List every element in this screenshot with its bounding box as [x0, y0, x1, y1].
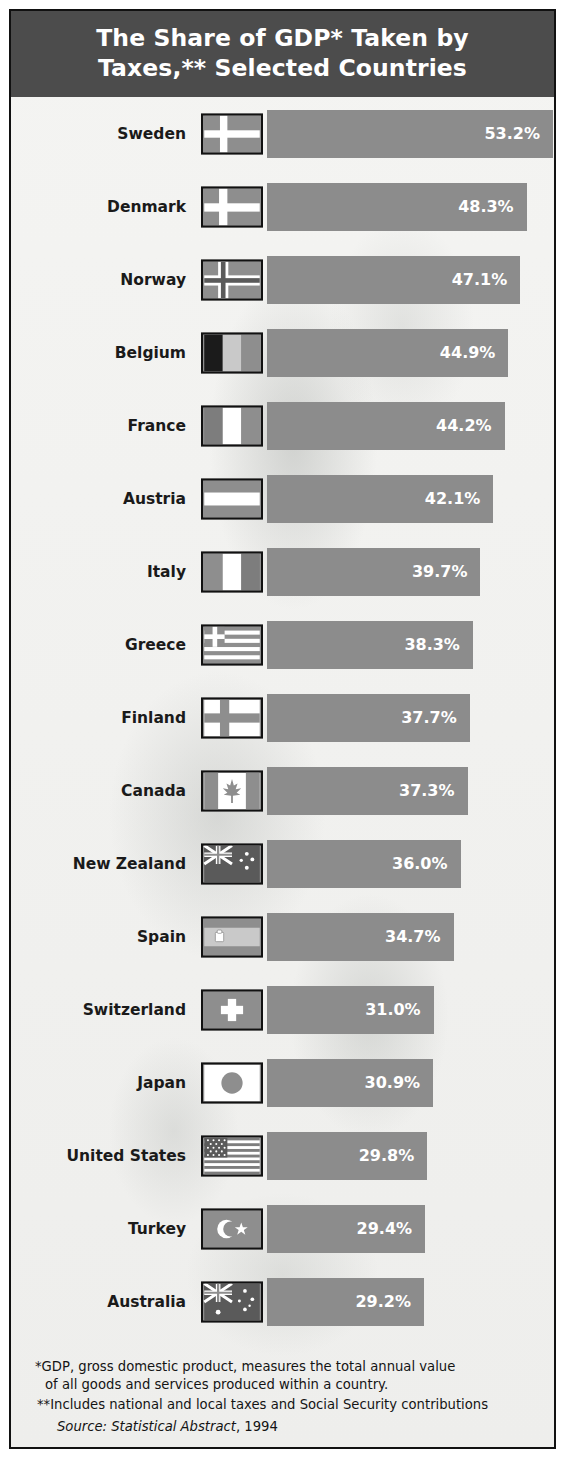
title-line-1: The Share of GDP* Taken by	[96, 24, 469, 52]
value-label: 36.0%	[392, 854, 448, 873]
chart-row: Denmark 48.3%	[11, 170, 554, 243]
turkey-flag	[201, 1208, 263, 1249]
chart-row: Finland 37.7%	[11, 681, 554, 754]
chart-row: Austria 42.1%	[11, 462, 554, 535]
chart-row: Japan 30.9%	[11, 1046, 554, 1119]
country-label: Spain	[137, 900, 186, 973]
source-text: Source: Statistical Abstract	[57, 1419, 236, 1434]
footnote-taxes: **Includes national and local taxes and …	[37, 1396, 554, 1413]
value-label: 31.0%	[365, 1000, 421, 1019]
denmark-flag	[201, 186, 263, 227]
value-bar: 29.8%	[267, 1132, 427, 1180]
value-label: 29.8%	[359, 1146, 415, 1165]
bar-chart-rows: Sweden 53.2%Denmark 48.3%Norway 47.1%Bel…	[11, 97, 554, 1338]
country-label: United States	[66, 1119, 186, 1192]
country-label: Canada	[121, 754, 186, 827]
value-bar: 44.9%	[267, 329, 508, 377]
united-states-flag	[201, 1135, 263, 1176]
chart-row: Italy 39.7%	[11, 535, 554, 608]
country-label: Belgium	[115, 316, 186, 389]
value-bar: 29.2%	[267, 1278, 424, 1326]
belgium-flag	[201, 332, 263, 373]
france-flag	[201, 405, 263, 446]
value-label: 48.3%	[458, 197, 514, 216]
country-label: Denmark	[107, 170, 186, 243]
country-label: Italy	[147, 535, 186, 608]
value-bar: 34.7%	[267, 913, 454, 961]
value-bar: 53.2%	[267, 110, 553, 158]
value-bar: 29.4%	[267, 1205, 425, 1253]
chart-row: Greece 38.3%	[11, 608, 554, 681]
sweden-flag	[201, 113, 263, 154]
chart-row: Norway 47.1%	[11, 243, 554, 316]
chart-row: United States 29.8%	[11, 1119, 554, 1192]
value-bar: 37.3%	[267, 767, 468, 815]
value-bar: 48.3%	[267, 183, 527, 231]
value-label: 34.7%	[385, 927, 441, 946]
value-label: 44.2%	[436, 416, 492, 435]
country-label: Austria	[123, 462, 186, 535]
value-label: 42.1%	[425, 489, 481, 508]
chart-row: Australia 29.2%	[11, 1265, 554, 1338]
country-label: Norway	[120, 243, 186, 316]
chart-row: Spain 34.7%	[11, 900, 554, 973]
value-bar: 37.7%	[267, 694, 470, 742]
country-label: France	[128, 389, 186, 462]
value-label: 44.9%	[440, 343, 496, 362]
source-year: , 1994	[236, 1419, 278, 1434]
country-label: Switzerland	[83, 973, 186, 1046]
infographic-poster: The Share of GDP* Taken by Taxes,** Sele…	[9, 9, 556, 1449]
greece-flag	[201, 624, 263, 665]
value-bar: 42.1%	[267, 475, 493, 523]
source-line: Source: Statistical Abstract, 1994	[57, 1418, 554, 1435]
footnote-gdp-line-1: *GDP, gross domestic product, measures t…	[35, 1359, 455, 1374]
footnotes: *GDP, gross domestic product, measures t…	[11, 1358, 554, 1435]
chart-header: The Share of GDP* Taken by Taxes,** Sele…	[11, 11, 554, 97]
value-bar: 31.0%	[267, 986, 434, 1034]
chart-row: Belgium 44.9%	[11, 316, 554, 389]
value-bar: 44.2%	[267, 402, 505, 450]
italy-flag	[201, 551, 263, 592]
country-label: Finland	[121, 681, 186, 754]
chart-row: Turkey 29.4%	[11, 1192, 554, 1265]
value-bar: 47.1%	[267, 256, 520, 304]
new-zealand-flag	[201, 843, 263, 884]
value-label: 39.7%	[412, 562, 468, 581]
value-label: 37.3%	[399, 781, 455, 800]
finland-flag	[201, 697, 263, 738]
footnote-gdp: *GDP, gross domestic product, measures t…	[45, 1358, 554, 1393]
japan-flag	[201, 1062, 263, 1103]
value-label: 29.4%	[357, 1219, 413, 1238]
chart-row: France 44.2%	[11, 389, 554, 462]
country-label: New Zealand	[73, 827, 186, 900]
chart-row: New Zealand 36.0%	[11, 827, 554, 900]
austria-flag	[201, 478, 263, 519]
country-label: Greece	[125, 608, 186, 681]
value-label: 30.9%	[365, 1073, 421, 1092]
value-label: 38.3%	[404, 635, 460, 654]
norway-flag	[201, 259, 263, 300]
chart-row: Sweden 53.2%	[11, 97, 554, 170]
value-bar: 30.9%	[267, 1059, 433, 1107]
country-label: Australia	[107, 1265, 186, 1338]
value-label: 29.2%	[355, 1292, 411, 1311]
canada-flag	[201, 770, 263, 811]
value-label: 53.2%	[484, 124, 540, 143]
value-bar: 38.3%	[267, 621, 473, 669]
value-label: 37.7%	[401, 708, 457, 727]
footnote-gdp-line-2: of all goods and services produced withi…	[45, 1377, 388, 1392]
chart-row: Switzerland 31.0%	[11, 973, 554, 1046]
chart-row: Canada 37.3%	[11, 754, 554, 827]
country-label: Japan	[137, 1046, 186, 1119]
australia-flag	[201, 1281, 263, 1322]
switzerland-flag	[201, 989, 263, 1030]
country-label: Sweden	[117, 97, 186, 170]
value-bar: 36.0%	[267, 840, 461, 888]
country-label: Turkey	[128, 1192, 186, 1265]
page-title: The Share of GDP* Taken by Taxes,** Sele…	[96, 24, 469, 83]
value-bar: 39.7%	[267, 548, 480, 596]
value-label: 47.1%	[452, 270, 508, 289]
spain-flag	[201, 916, 263, 957]
title-line-2: Taxes,** Selected Countries	[98, 54, 467, 82]
